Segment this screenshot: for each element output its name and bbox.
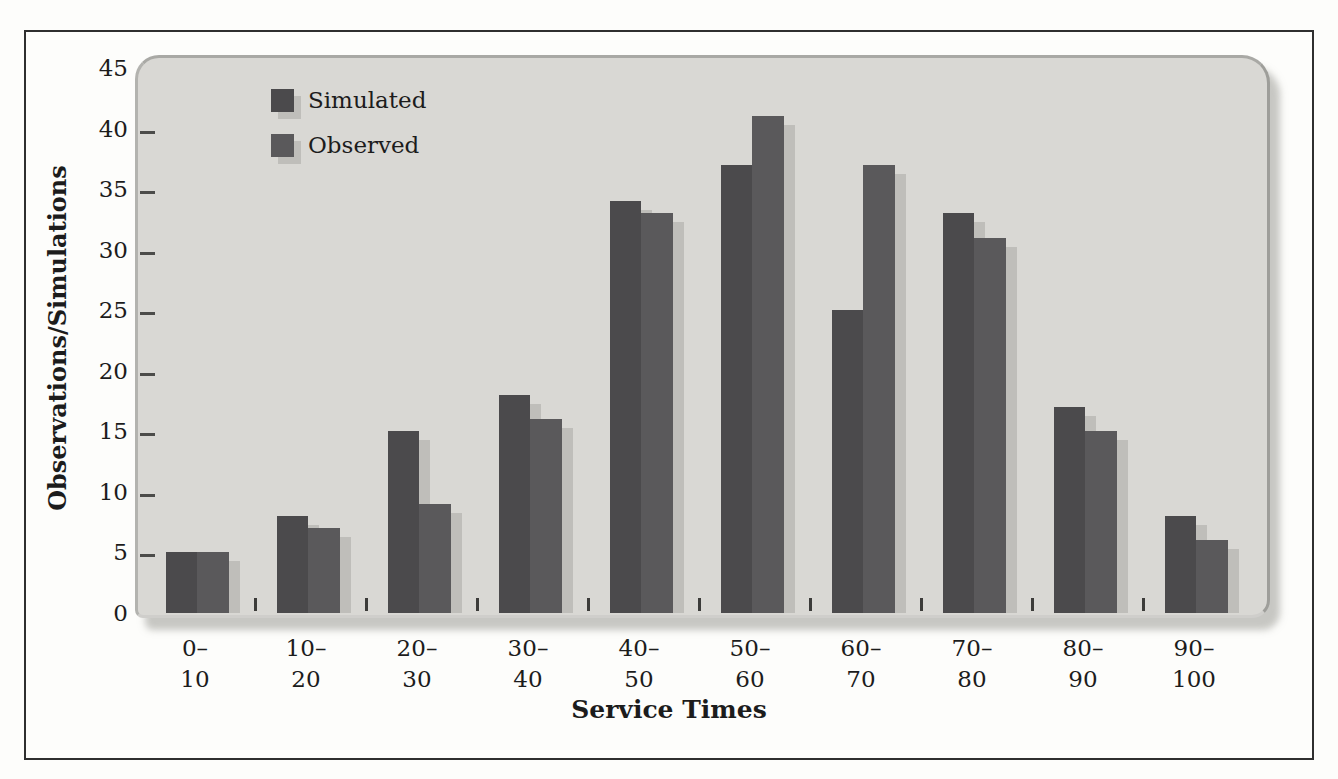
bar-group-10–20 — [277, 516, 340, 613]
x-axis-tick — [698, 598, 701, 611]
bar-observed-10–20 — [308, 528, 340, 613]
figure: Observations/Simulations 454035302520151… — [0, 0, 1338, 779]
bar-group-20–30 — [388, 431, 451, 613]
legend-item-observed: Observed — [271, 133, 426, 157]
x-tick-label-70–80: 70–80 — [917, 633, 1027, 695]
bar-simulated-50–60 — [721, 165, 752, 613]
bar-group-50–60 — [721, 116, 784, 613]
bar-observed-80–90 — [1085, 431, 1117, 613]
legend-label-simulated: Simulated — [308, 87, 426, 113]
x-tick-label-line: 80– — [1028, 633, 1138, 664]
x-axis-tick — [476, 598, 479, 611]
y-tick-label-0: 0 — [28, 598, 128, 628]
y-axis-tick — [140, 191, 155, 194]
x-tick-label-line: 30– — [473, 633, 583, 664]
x-tick-label-60–70: 60–70 — [806, 633, 916, 695]
x-axis-tick — [920, 598, 923, 611]
y-tick-label-20: 20 — [28, 356, 128, 386]
x-tick-label-10–20: 10–20 — [251, 633, 361, 695]
bar-simulated-40–50 — [610, 201, 641, 613]
bar-observed-60–70 — [863, 165, 895, 613]
x-tick-label-line: 10 — [140, 664, 250, 695]
x-axis-tick — [809, 598, 812, 611]
x-axis-title: Service Times — [0, 695, 1338, 724]
x-tick-label-line: 0– — [140, 633, 250, 664]
bar-group-0–10 — [166, 552, 229, 613]
legend-item-simulated: Simulated — [271, 88, 426, 112]
bar-group-60–70 — [832, 165, 895, 613]
y-tick-label-45: 45 — [28, 53, 128, 83]
x-tick-label-30–40: 30–40 — [473, 633, 583, 695]
x-tick-label-line: 50 — [584, 664, 694, 695]
x-axis-tick — [1031, 598, 1034, 611]
x-tick-label-line: 90 — [1028, 664, 1138, 695]
y-axis-title: Observations/Simulations — [43, 165, 72, 511]
y-axis-tick — [140, 373, 155, 376]
legend-label-observed: Observed — [308, 132, 419, 158]
x-tick-label-20–30: 20–30 — [362, 633, 472, 695]
legend: Simulated Observed — [271, 88, 426, 178]
bar-simulated-70–80 — [943, 213, 974, 613]
bar-simulated-20–30 — [388, 431, 419, 613]
x-axis-tick — [1142, 598, 1145, 611]
bar-simulated-0–10 — [166, 552, 197, 613]
bar-simulated-10–20 — [277, 516, 308, 613]
x-tick-label-line: 60– — [806, 633, 916, 664]
x-tick-label-line: 60 — [695, 664, 805, 695]
y-axis-tick — [140, 494, 155, 497]
x-axis-tick — [254, 598, 257, 611]
y-axis-tick — [140, 554, 155, 557]
y-axis-tick — [140, 433, 155, 436]
y-axis-tick — [140, 312, 155, 315]
x-tick-label-0–10: 0–10 — [140, 633, 250, 695]
x-tick-label-line: 100 — [1139, 664, 1249, 695]
bar-observed-20–30 — [419, 504, 451, 613]
x-tick-label-80–90: 80–90 — [1028, 633, 1138, 695]
y-axis-tick — [140, 252, 155, 255]
x-axis-tick — [365, 598, 368, 611]
bar-group-40–50 — [610, 201, 673, 613]
bar-simulated-80–90 — [1054, 407, 1085, 613]
x-tick-label-line: 10– — [251, 633, 361, 664]
x-tick-label-line: 20 — [251, 664, 361, 695]
x-tick-label-line: 20– — [362, 633, 472, 664]
x-tick-label-line: 40– — [584, 633, 694, 664]
x-tick-label-90–100: 90–100 — [1139, 633, 1249, 695]
y-tick-label-30: 30 — [28, 235, 128, 265]
x-tick-label-line: 40 — [473, 664, 583, 695]
bar-simulated-30–40 — [499, 395, 530, 613]
y-tick-label-10: 10 — [28, 477, 128, 507]
bar-observed-90–100 — [1196, 540, 1228, 613]
x-tick-label-line: 70 — [806, 664, 916, 695]
x-tick-label-line: 80 — [917, 664, 1027, 695]
x-tick-label-line: 50– — [695, 633, 805, 664]
bar-observed-70–80 — [974, 238, 1006, 613]
y-tick-label-35: 35 — [28, 174, 128, 204]
bar-simulated-90–100 — [1165, 516, 1196, 613]
y-tick-label-5: 5 — [28, 537, 128, 567]
bar-group-80–90 — [1054, 407, 1117, 613]
bar-group-70–80 — [943, 213, 1006, 613]
simulated-swatch-icon — [271, 89, 294, 112]
y-tick-label-40: 40 — [28, 114, 128, 144]
chart-panel: Simulated Observed — [135, 55, 1270, 618]
bar-group-90–100 — [1165, 516, 1228, 613]
x-tick-label-line: 30 — [362, 664, 472, 695]
observed-swatch-icon — [271, 134, 294, 157]
x-axis-tick — [587, 598, 590, 611]
x-tick-label-50–60: 50–60 — [695, 633, 805, 695]
x-tick-label-40–50: 40–50 — [584, 633, 694, 695]
bar-simulated-60–70 — [832, 310, 863, 613]
y-tick-label-25: 25 — [28, 295, 128, 325]
x-tick-label-line: 70– — [917, 633, 1027, 664]
x-tick-label-line: 90– — [1139, 633, 1249, 664]
bar-group-30–40 — [499, 395, 562, 613]
bar-observed-40–50 — [641, 213, 673, 613]
bar-observed-50–60 — [752, 116, 784, 613]
y-axis-tick — [140, 131, 155, 134]
bar-observed-30–40 — [530, 419, 562, 613]
bar-observed-0–10 — [197, 552, 229, 613]
y-tick-label-15: 15 — [28, 416, 128, 446]
